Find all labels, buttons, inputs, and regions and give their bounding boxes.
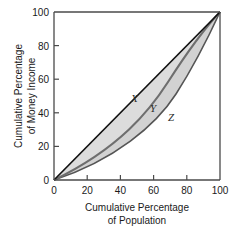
chart-canvas: 100 80 60 40 20 0 0 20 40 60 80 100 X Y … <box>0 0 237 232</box>
x-axis-title-line1: Cumulative Percentage <box>85 202 189 213</box>
ytick-label-40: 40 <box>38 108 50 119</box>
xtick-label-40: 40 <box>115 185 127 196</box>
x-axis-title-line2: of Population <box>108 215 166 226</box>
xtick-label-20: 20 <box>82 185 94 196</box>
curve-label-z: Z <box>168 111 175 123</box>
xtick-label-0: 0 <box>51 185 57 196</box>
ytick-label-20: 20 <box>38 141 50 152</box>
xtick-label-100: 100 <box>212 185 229 196</box>
ytick-label-60: 60 <box>38 74 50 85</box>
ytick-label-100: 100 <box>32 7 49 18</box>
curve-label-x: X <box>130 92 139 104</box>
lorenz-curve-figure: 100 80 60 40 20 0 0 20 40 60 80 100 X Y … <box>0 0 237 232</box>
y-axis-title-line1: Cumulative Percentage <box>13 44 24 148</box>
xtick-label-80: 80 <box>181 185 193 196</box>
ytick-label-80: 80 <box>38 41 50 52</box>
ytick-label-0: 0 <box>43 175 49 186</box>
y-axis-title-line2: of Money Income <box>26 57 37 134</box>
xtick-label-60: 60 <box>148 185 160 196</box>
